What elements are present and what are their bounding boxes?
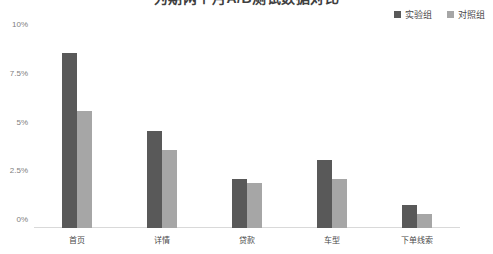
legend-item-experiment[interactable]: 实验组	[394, 8, 432, 21]
bar-experiment[interactable]	[402, 205, 417, 228]
x-axis-category-label: 下单线索	[375, 234, 460, 245]
bar-chart: 为期两个月A/B测试数据对比 实验组 对照组 0%2.5%5%7.5%10% 首…	[0, 0, 493, 254]
y-axis-tick-label: 7.5%	[10, 68, 28, 77]
bar-group: 车型	[290, 33, 375, 228]
bar-group: 下单线索	[375, 33, 460, 228]
plot-area: 0%2.5%5%7.5%10% 首页详情贷款车型下单线索	[34, 33, 460, 228]
y-axis-tick-label: 5%	[16, 117, 28, 126]
bar-experiment[interactable]	[62, 53, 77, 229]
bar-experiment[interactable]	[317, 160, 332, 228]
bar-group: 贷款	[204, 33, 289, 228]
y-axis-tick-label: 0%	[16, 215, 28, 224]
bar-experiment[interactable]	[147, 131, 162, 229]
x-axis-category-label: 详情	[119, 234, 204, 245]
chart-legend: 实验组 对照组	[394, 8, 485, 21]
legend-label: 实验组	[405, 8, 432, 21]
bar-experiment[interactable]	[232, 179, 247, 228]
y-axis-tick-label: 10%	[12, 20, 28, 29]
x-axis-category-label: 首页	[34, 234, 119, 245]
bar-control[interactable]	[77, 111, 92, 228]
legend-item-control[interactable]: 对照组	[447, 8, 485, 21]
x-axis-category-label: 车型	[290, 234, 375, 245]
bar-group: 首页	[34, 33, 119, 228]
bar-control[interactable]	[247, 183, 262, 228]
legend-label: 对照组	[458, 8, 485, 21]
bar-control[interactable]	[162, 150, 177, 228]
y-axis-tick-label: 2.5%	[10, 166, 28, 175]
bar-groups: 首页详情贷款车型下单线索	[34, 33, 460, 228]
bar-control[interactable]	[332, 179, 347, 228]
legend-swatch-icon	[447, 11, 454, 18]
bar-control[interactable]	[417, 214, 432, 228]
legend-swatch-icon	[394, 11, 401, 18]
x-axis-category-label: 贷款	[204, 234, 289, 245]
chart-title: 为期两个月A/B测试数据对比	[0, 0, 493, 7]
bar-group: 详情	[119, 33, 204, 228]
